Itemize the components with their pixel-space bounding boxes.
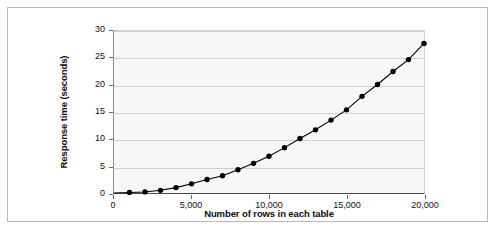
x-axis-title: Number of rows in each table bbox=[113, 208, 425, 219]
data-point bbox=[297, 136, 302, 141]
y-tick-label: 0 bbox=[71, 189, 105, 198]
plot-area bbox=[113, 30, 425, 194]
series-polyline bbox=[114, 43, 424, 193]
y-tick-label: 25 bbox=[71, 52, 105, 61]
data-point bbox=[375, 82, 380, 87]
y-tick-mark bbox=[109, 30, 113, 31]
x-tick-mark bbox=[191, 195, 192, 199]
y-tick-label: 10 bbox=[71, 134, 105, 143]
data-point bbox=[251, 161, 256, 166]
x-tick-mark bbox=[269, 195, 270, 199]
y-tick-mark bbox=[109, 139, 113, 140]
data-point bbox=[189, 181, 194, 186]
data-point bbox=[344, 107, 349, 112]
data-point bbox=[266, 154, 271, 159]
data-series-line bbox=[114, 31, 424, 193]
y-tick-mark bbox=[109, 167, 113, 168]
data-point bbox=[204, 177, 209, 182]
series-markers bbox=[127, 41, 427, 195]
x-tick-mark bbox=[347, 195, 348, 199]
chart-screenshot: 051015202530 05,00010,00015,00020,000 Re… bbox=[0, 0, 500, 232]
y-tick-label: 15 bbox=[71, 107, 105, 116]
data-point bbox=[390, 69, 395, 74]
y-tick-label: 5 bbox=[71, 162, 105, 171]
data-point bbox=[127, 190, 132, 195]
data-point bbox=[158, 188, 163, 193]
x-tick-mark bbox=[425, 195, 426, 199]
data-point bbox=[282, 145, 287, 150]
y-tick-mark bbox=[109, 112, 113, 113]
x-tick-mark bbox=[113, 195, 114, 199]
data-point bbox=[235, 167, 240, 172]
y-axis-title: Response time (seconds) bbox=[58, 30, 72, 194]
y-tick-mark bbox=[109, 57, 113, 58]
y-tick-label: 30 bbox=[71, 25, 105, 34]
data-point bbox=[421, 41, 426, 46]
data-point bbox=[173, 185, 178, 190]
y-tick-label: 20 bbox=[71, 80, 105, 89]
data-point bbox=[313, 127, 318, 132]
data-point bbox=[328, 117, 333, 122]
data-point bbox=[406, 57, 411, 62]
figure-frame: 051015202530 05,00010,00015,00020,000 Re… bbox=[7, 7, 488, 222]
y-tick-mark bbox=[109, 85, 113, 86]
data-point bbox=[359, 94, 364, 99]
data-point bbox=[220, 173, 225, 178]
data-point bbox=[142, 189, 147, 194]
